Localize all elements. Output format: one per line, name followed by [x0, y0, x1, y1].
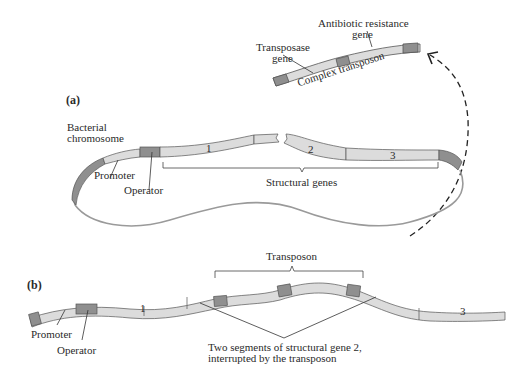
operator-label-b: Operator	[57, 345, 96, 356]
insertion-arrow	[410, 52, 468, 236]
complex-transposon	[24, 0, 420, 86]
gene-1-label-a: 1	[206, 143, 212, 154]
segments-label-2: interrupted by the transposon	[208, 353, 337, 364]
gene-1-label-b: 1	[140, 303, 146, 314]
promoter-label-a: Promoter	[94, 170, 135, 181]
antibiotic-resistance-label-2: gene	[352, 29, 373, 40]
operator-label-a: Operator	[124, 185, 163, 196]
gene-3-label-b: 3	[460, 306, 466, 317]
promoter-label-b: Promoter	[31, 329, 72, 340]
gene-2-label-a: 2	[308, 144, 314, 155]
transposase-label-2: gene	[272, 53, 293, 64]
panel-b-chromosome	[29, 266, 505, 340]
diagram-canvas	[0, 0, 528, 382]
structural-genes-label: Structural genes	[266, 177, 337, 188]
bacterial-chromosome-label-2: chromosome	[67, 133, 124, 144]
transposon-label-b: Transposon	[266, 251, 317, 262]
panel-a-label: (a)	[66, 95, 80, 106]
panel-b-label: (b)	[27, 280, 42, 291]
gene-3-label-a: 3	[390, 150, 396, 161]
